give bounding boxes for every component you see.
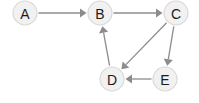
node-label-e: E — [160, 72, 169, 88]
edge-line-d-b — [104, 33, 110, 66]
graph-node-b[interactable]: B — [88, 1, 112, 25]
edge-line-c-d — [126, 23, 167, 65]
graph-node-a[interactable]: A — [13, 1, 37, 25]
arrowhead-icon-b-c — [156, 8, 163, 17]
node-label-d: D — [107, 72, 117, 88]
node-label-a: A — [20, 6, 30, 22]
node-label-c: C — [171, 6, 181, 22]
arrowhead-icon-d-b — [99, 26, 108, 33]
node-layer: ABCDE — [13, 1, 188, 91]
arrowhead-icon-c-e — [164, 59, 173, 66]
edge-line-c-e — [168, 26, 173, 59]
arrowhead-icon-e-d — [126, 74, 133, 83]
graph-node-e[interactable]: E — [153, 67, 177, 91]
graph-node-d[interactable]: D — [100, 67, 124, 91]
directed-graph-diagram: ABCDE — [0, 0, 199, 103]
node-label-b: B — [95, 6, 104, 22]
arrowhead-icon-a-b — [80, 8, 87, 17]
graph-node-c[interactable]: C — [164, 1, 188, 25]
